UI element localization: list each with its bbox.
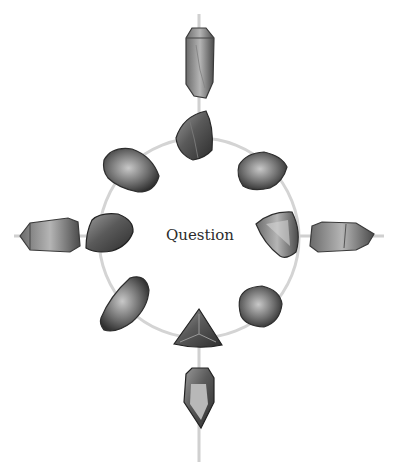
- stone-bottom-left: [100, 277, 149, 331]
- stone-top: [176, 111, 212, 160]
- center-question-label: Question: [150, 226, 250, 244]
- crystal-west: [20, 218, 80, 252]
- crystal-north: [186, 28, 214, 98]
- crystal-east: [310, 222, 374, 252]
- crystal-south: [184, 368, 214, 428]
- stone-bottom-right: [239, 286, 282, 327]
